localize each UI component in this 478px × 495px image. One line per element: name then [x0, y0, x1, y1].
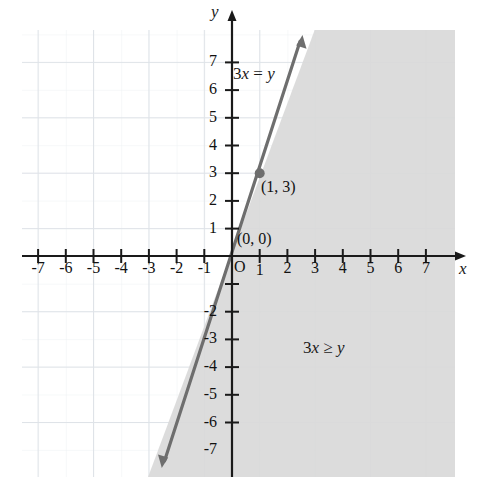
y-tick-label: 5	[193, 108, 217, 126]
origin-point-label: (0, 0)	[237, 230, 272, 248]
y-tick-label: -7	[189, 440, 217, 458]
x-tick-label: -7	[23, 259, 53, 277]
x-tick-label: -2	[162, 259, 192, 277]
x-tick-label: 6	[388, 259, 408, 277]
y-tick-label: -5	[189, 385, 217, 403]
y-tick-label: 1	[193, 219, 217, 237]
y-tick-label: 2	[193, 191, 217, 209]
y-tick-label: -4	[189, 357, 217, 375]
x-tick-label: -1	[189, 259, 219, 277]
x-tick-label: 3	[305, 259, 325, 277]
y-tick-label: 6	[193, 80, 217, 98]
data-point-1-3	[255, 168, 265, 178]
x-tick-label: -6	[51, 259, 81, 277]
x-axis-label: x	[459, 259, 467, 279]
x-tick-label: -4	[106, 259, 136, 277]
y-tick-label: 4	[193, 136, 217, 154]
origin-label: O	[234, 258, 246, 276]
x-tick-label: 1	[250, 261, 270, 279]
x-tick-label: -5	[79, 259, 109, 277]
y-tick-label: 3	[193, 163, 217, 181]
graph-figure: y x O -7 -6 -5 -4 -3 -2 -1 1 2 3 4 5 6 7…	[0, 0, 478, 495]
point-1-3-label: (1, 3)	[261, 178, 296, 196]
line-equation-label: 3x = y	[233, 64, 275, 84]
x-tick-label: 5	[361, 259, 381, 277]
y-tick-label: 7	[193, 52, 217, 70]
y-tick-label: -3	[189, 329, 217, 347]
x-tick-label: 7	[416, 259, 436, 277]
y-tick-label: -2	[189, 302, 217, 320]
region-inequality-label: 3x ≥ y	[303, 338, 344, 358]
y-axis-label: y	[211, 2, 219, 22]
x-tick-label: 2	[277, 259, 297, 277]
x-tick-label: -3	[134, 259, 164, 277]
y-tick-label: -6	[189, 413, 217, 431]
x-tick-label: 4	[333, 259, 353, 277]
